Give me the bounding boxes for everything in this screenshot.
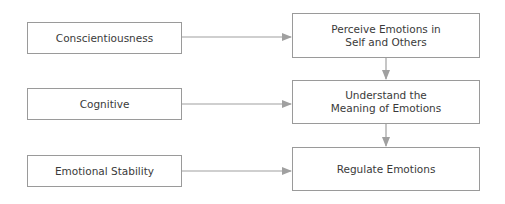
node-conscientiousness: Conscientiousness bbox=[27, 22, 182, 54]
node-regulate-emotions: Regulate Emotions bbox=[292, 147, 480, 191]
node-label: Cognitive bbox=[80, 98, 130, 111]
node-label: Perceive Emotions in Self and Others bbox=[329, 23, 443, 49]
node-label: Emotional Stability bbox=[55, 165, 154, 178]
node-label: Regulate Emotions bbox=[337, 163, 436, 176]
node-label: Understand the Meaning of Emotions bbox=[323, 89, 449, 115]
node-understand-emotions: Understand the Meaning of Emotions bbox=[292, 80, 480, 124]
node-emotional-stability: Emotional Stability bbox=[27, 155, 182, 187]
node-label: Conscientiousness bbox=[56, 32, 153, 45]
node-cognitive: Cognitive bbox=[27, 88, 182, 120]
node-perceive-emotions: Perceive Emotions in Self and Others bbox=[292, 13, 480, 58]
